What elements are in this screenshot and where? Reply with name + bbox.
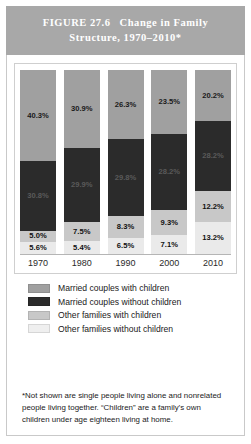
bar-segment-label: 9.3%: [161, 219, 178, 227]
bar-segment-label: 23.5%: [158, 98, 180, 106]
figure-number: FIGURE 27.6: [43, 17, 111, 28]
bar-segment-label: 20.2%: [202, 92, 224, 100]
bar-segment: 13.2%: [195, 222, 231, 255]
bar-segment-label: 6.5%: [117, 242, 134, 250]
bar-segment: 9.3%: [151, 210, 187, 235]
bar-segment-label: 28.2%: [202, 152, 224, 160]
bar-column: 30.9%29.9%7.5%5.4%: [64, 70, 100, 254]
figure-body: 40.3%30.8%5.0%5.6%30.9%29.9%7.5%5.4%26.3…: [6, 55, 245, 436]
bar-segment-label: 5.4%: [73, 244, 90, 252]
bar-segment: 5.6%: [20, 242, 56, 255]
legend-item-label: Married couples without children: [58, 297, 181, 307]
bar-column: 20.2%28.2%12.2%13.2%: [195, 70, 231, 254]
bar-segment-label: 5.6%: [29, 244, 46, 252]
bar-segment: 8.3%: [108, 216, 144, 238]
bar-segment: 7.5%: [64, 222, 100, 241]
bar-segment: 26.3%: [108, 70, 144, 138]
chart-legend: Married couples with childrenMarried cou…: [14, 274, 237, 337]
bar-segment: 29.9%: [64, 148, 100, 223]
legend-swatch-icon: [28, 284, 50, 293]
bar-segment: 20.2%: [195, 70, 231, 120]
plot-area: 40.3%30.8%5.0%5.6%30.9%29.9%7.5%5.4%26.3…: [14, 63, 237, 274]
bar-segment: 23.5%: [151, 70, 187, 133]
x-axis-tick-label: 1970: [20, 258, 56, 268]
bar-segment: 29.8%: [108, 139, 144, 216]
bar-segment-label: 26.3%: [115, 101, 137, 109]
legend-item: Other families without children: [28, 324, 237, 334]
bar-segment-label: 30.9%: [71, 105, 93, 113]
bar-segment-label: 29.8%: [115, 174, 137, 182]
bar-segment-label: 12.2%: [202, 203, 224, 211]
bar-segment: 30.8%: [20, 161, 56, 230]
legend-swatch-icon: [28, 297, 50, 306]
bar-segment: 7.1%: [151, 235, 187, 254]
legend-item: Married couples without children: [28, 297, 237, 307]
bar-segment: 40.3%: [20, 70, 56, 161]
x-axis-tick-label: 1990: [108, 258, 144, 268]
legend-item-label: Other families with children: [58, 310, 161, 320]
bar-column: 23.5%28.2%9.3%7.1%: [151, 70, 187, 254]
bar-segment-label: 8.3%: [117, 223, 134, 231]
bar-segment: 30.9%: [64, 70, 100, 147]
bar-segment: 12.2%: [195, 191, 231, 221]
stacked-bar-chart: 40.3%30.8%5.0%5.6%30.9%29.9%7.5%5.4%26.3…: [20, 70, 231, 255]
legend-item-label: Other families without children: [58, 324, 173, 334]
bar-segment: 5.0%: [20, 231, 56, 242]
figure-header: FIGURE 27.6Change in Family Structure, 1…: [6, 6, 245, 55]
bar-segment-label: 30.8%: [27, 192, 49, 200]
legend-item-label: Married couples with children: [58, 283, 169, 293]
x-axis-ticks: 19701980199020002010: [20, 255, 231, 273]
bar-segment-label: 40.3%: [27, 112, 49, 120]
figure-footnote: *Not shown are single people living alon…: [14, 390, 237, 429]
legend-item: Married couples with children: [28, 283, 237, 293]
bar-segment-label: 13.2%: [202, 234, 224, 242]
bar-segment-label: 7.1%: [161, 241, 178, 249]
bar-segment: 6.5%: [108, 238, 144, 255]
figure-container: FIGURE 27.6Change in Family Structure, 1…: [0, 0, 251, 444]
legend-swatch-icon: [28, 324, 50, 333]
bar-segment-label: 7.5%: [73, 228, 90, 236]
bar-segment-label: 28.2%: [158, 168, 180, 176]
bar-segment-label: 29.9%: [71, 181, 93, 189]
bar-segment: 5.4%: [64, 241, 100, 254]
bar-segment-label: 5.0%: [29, 232, 46, 240]
x-axis-tick-label: 1980: [64, 258, 100, 268]
bar-column: 26.3%29.8%8.3%6.5%: [108, 70, 144, 254]
x-axis-tick-label: 2000: [151, 258, 187, 268]
x-axis-tick-label: 2010: [195, 258, 231, 268]
legend-swatch-icon: [28, 311, 50, 320]
bar-segment: 28.2%: [195, 121, 231, 191]
bar-column: 40.3%30.8%5.0%5.6%: [20, 70, 56, 254]
legend-item: Other families with children: [28, 310, 237, 320]
bar-segment: 28.2%: [151, 134, 187, 210]
